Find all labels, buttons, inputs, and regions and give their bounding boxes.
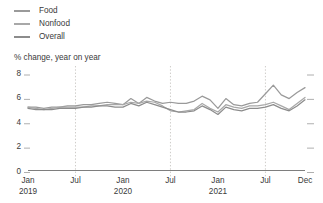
x-tick-label: Dec <box>298 176 313 185</box>
y-tick-label: 8 <box>16 69 21 78</box>
x-tick-label: Jan <box>211 176 225 185</box>
x-tick-year-label: 2019 <box>19 187 38 196</box>
right-axis-ticks <box>307 75 314 173</box>
chart-container: Food Nonfood Overall % change, year on y… <box>0 0 323 203</box>
plot-area: 86420 Jan2019JulJan2020JulJan2021JulDec <box>0 0 323 203</box>
y-tick-label: 0 <box>16 167 21 176</box>
x-tick-year-label: 2020 <box>114 187 133 196</box>
series-line-nonfood <box>28 97 305 112</box>
data-series-group <box>28 85 305 114</box>
y-tick-label: 6 <box>16 93 21 102</box>
x-tick-label: Jul <box>70 176 81 185</box>
x-tick-label: Jan <box>21 176 35 185</box>
y-tick-label: 2 <box>16 142 21 151</box>
x-tick-year-label: 2021 <box>209 187 228 196</box>
y-tick-label: 4 <box>16 118 21 127</box>
x-tick-label: Jul <box>260 176 271 185</box>
x-axis-ticks: Jan2019JulJan2020JulJan2021JulDec <box>19 176 312 196</box>
y-axis-ticks: 86420 <box>16 69 30 176</box>
x-tick-label: Jan <box>116 176 130 185</box>
grid-lines <box>75 66 265 178</box>
x-tick-label: Jul <box>165 176 176 185</box>
